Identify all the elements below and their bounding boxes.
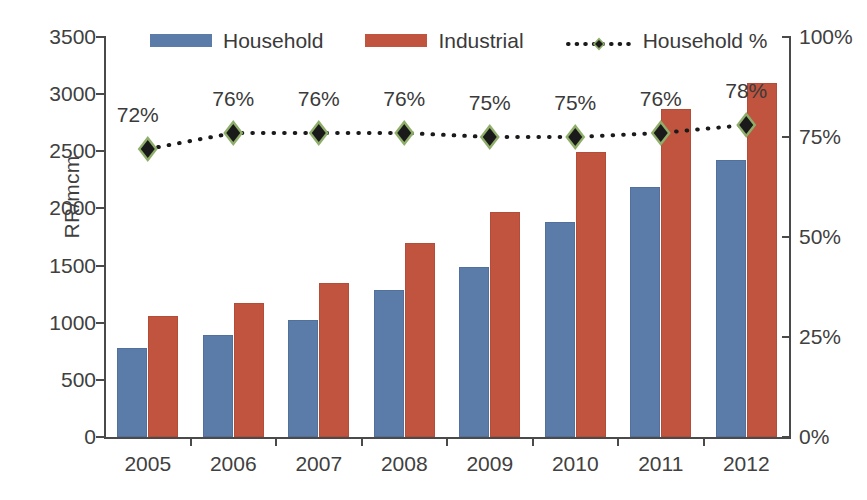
y-tick-mark [96,36,105,38]
y-tick-mark [96,265,105,267]
percent-data-label: 72% [103,103,173,127]
percent-data-label: 75% [455,91,525,115]
secondary-y-tick-label: 75% [799,126,867,147]
legend-label-industrial: Industrial [438,30,523,51]
x-tick-mark [361,439,363,446]
chart-container: RR/mcm 0500100015002000250030003500 0%25… [0,0,867,500]
percent-data-label: 76% [369,87,439,111]
percent-data-label: 76% [198,87,268,111]
y-tick-mark [96,379,105,381]
legend-dotted-diamond-icon [566,33,632,49]
legend-item-industrial[interactable]: Industrial [365,30,523,51]
y-tick-mark [96,150,105,152]
y-tick-label: 2500 [0,140,96,161]
y-tick-mark [96,93,105,95]
y-tick-mark [96,436,105,438]
x-tick-label: 2011 [621,452,701,476]
x-tick-mark [617,439,619,446]
percent-markers [138,112,757,162]
y-tick-mark [96,322,105,324]
secondary-y-tick-label: 0% [799,426,867,447]
x-tick-mark [446,439,448,446]
y-tick-label: 3000 [0,83,96,104]
x-tick-mark [532,439,534,446]
chart-legend: Household Industrial Household % [150,30,768,51]
legend-swatch-household-icon [150,34,212,47]
y-tick-label: 0 [0,426,96,447]
x-tick-mark [190,439,192,446]
x-tick-label: 2009 [450,452,530,476]
y-tick-label: 500 [0,369,96,390]
x-tick-mark [275,439,277,446]
y-tick-label: 2000 [0,197,96,218]
x-tick-label: 2007 [279,452,359,476]
percent-data-label: 78% [711,79,781,103]
percent-data-label: 76% [284,87,354,111]
secondary-y-tick-label: 25% [799,326,867,347]
percent-data-label: 75% [540,91,610,115]
legend-swatch-industrial-icon [365,34,427,47]
x-tick-label: 2008 [364,452,444,476]
legend-label-household-percent: Household % [643,30,768,51]
x-tick-label: 2005 [108,452,188,476]
y-tick-label: 3500 [0,26,96,47]
legend-item-household-percent[interactable]: Household % [566,30,768,51]
legend-item-household[interactable]: Household [150,30,323,51]
secondary-y-tick-label: 50% [799,226,867,247]
x-tick-mark [703,439,705,446]
x-tick-label: 2006 [193,452,273,476]
percent-data-label: 76% [626,87,696,111]
y-tick-mark [96,207,105,209]
x-tick-label: 2010 [535,452,615,476]
y-tick-label: 1000 [0,312,96,333]
secondary-y-tick-label: 100% [799,26,867,47]
x-tick-label: 2012 [706,452,786,476]
legend-label-household: Household [223,30,323,51]
y-tick-label: 1500 [0,255,96,276]
